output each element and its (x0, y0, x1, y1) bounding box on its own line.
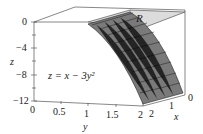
z-tick-neg12: −12 (13, 95, 29, 106)
y-axis-label: y (82, 121, 88, 132)
y-tick-1: 1 (84, 108, 89, 119)
z-tick-neg4: −4 (16, 42, 27, 53)
y-tick-0-5: 0.5 (53, 106, 66, 117)
x-tick-1: 1 (169, 100, 174, 111)
y-tick-1-5: 1.5 (106, 109, 119, 120)
region-label: R (135, 12, 143, 24)
x-tick-0: 0 (188, 92, 193, 103)
x-tick-2: 2 (149, 108, 154, 119)
y-axis-ticks (61, 101, 116, 107)
surface-plot: 0 −4 −8 −12 z 0 0.5 1 1.5 2 y 2 1 0 x R … (0, 0, 203, 134)
z-tick-0: 0 (22, 16, 27, 27)
surface-z-x-minus-3y2 (88, 12, 183, 104)
equation-label: z = x − 3y² (47, 70, 95, 81)
z-axis-label: z (9, 56, 14, 67)
y-tick-0: 0 (30, 104, 35, 115)
y-tick-2: 2 (138, 109, 143, 120)
z-tick-neg8: −8 (16, 69, 27, 80)
x-axis-label: x (173, 111, 179, 122)
